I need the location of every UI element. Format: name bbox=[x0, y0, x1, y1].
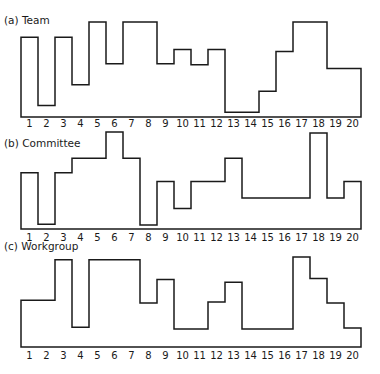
x-tick-label: 4 bbox=[77, 118, 83, 129]
x-tick-label: 7 bbox=[128, 118, 134, 129]
x-tick-label: 15 bbox=[261, 118, 274, 129]
x-tick-label: 10 bbox=[176, 118, 189, 129]
x-tick-label: 16 bbox=[278, 118, 291, 129]
x-tick-label: 19 bbox=[329, 350, 342, 361]
x-tick-label: 11 bbox=[193, 232, 206, 243]
x-tick-label: 3 bbox=[60, 118, 66, 129]
x-tick-label: 18 bbox=[312, 350, 325, 361]
x-tick-label: 7 bbox=[128, 232, 134, 243]
x-tick-label: 2 bbox=[43, 350, 49, 361]
x-tick-label: 9 bbox=[162, 350, 168, 361]
x-tick-label: 18 bbox=[312, 118, 325, 129]
x-tick-label: 19 bbox=[329, 118, 342, 129]
x-tick-label: 18 bbox=[312, 232, 325, 243]
x-tick-label: 11 bbox=[193, 118, 206, 129]
x-tick-label: 10 bbox=[176, 232, 189, 243]
x-tick-label: 15 bbox=[261, 350, 274, 361]
x-tick-label: 12 bbox=[210, 350, 223, 361]
x-tick-label: 15 bbox=[261, 232, 274, 243]
x-tick-label: 8 bbox=[145, 118, 151, 129]
x-tick-label: 3 bbox=[60, 350, 66, 361]
panel-team: (a) Team 1234567891011121314151617181920 bbox=[4, 14, 361, 129]
panel-title-committee: (b) Committee bbox=[4, 137, 80, 149]
x-tick-label: 17 bbox=[295, 350, 308, 361]
x-tick-label: 8 bbox=[145, 350, 151, 361]
x-tick-label: 5 bbox=[94, 350, 100, 361]
x-tick-label: 10 bbox=[176, 350, 189, 361]
x-tick-label: 12 bbox=[210, 232, 223, 243]
x-tick-label: 20 bbox=[346, 232, 359, 243]
x-tick-label: 20 bbox=[346, 350, 359, 361]
x-tick-label: 5 bbox=[94, 118, 100, 129]
x-tick-label: 13 bbox=[227, 232, 240, 243]
x-tick-label: 9 bbox=[162, 118, 168, 129]
x-tick-label: 11 bbox=[193, 350, 206, 361]
x-tick-label: 8 bbox=[145, 232, 151, 243]
x-tick-label: 17 bbox=[295, 118, 308, 129]
x-tick-label: 1 bbox=[26, 118, 32, 129]
x-tick-label: 1 bbox=[26, 350, 32, 361]
x-tick-label: 13 bbox=[227, 350, 240, 361]
x-tick-label: 6 bbox=[111, 350, 117, 361]
panel-committee: (b) Committee 12345678910111213141516171… bbox=[4, 132, 361, 243]
x-tick-label: 14 bbox=[244, 232, 257, 243]
x-tick-label: 5 bbox=[94, 232, 100, 243]
panel-workgroup: (c) Workgroup 12345678910111213141516171… bbox=[4, 240, 361, 361]
x-tick-label: 14 bbox=[244, 118, 257, 129]
x-tick-label: 4 bbox=[77, 350, 83, 361]
panel-title-workgroup: (c) Workgroup bbox=[4, 240, 79, 252]
x-tick-label: 16 bbox=[278, 232, 291, 243]
step-series-line bbox=[21, 257, 361, 347]
x-tick-label: 2 bbox=[43, 118, 49, 129]
x-tick-label: 6 bbox=[111, 232, 117, 243]
x-tick-label: 16 bbox=[278, 350, 291, 361]
x-tick-label: 12 bbox=[210, 118, 223, 129]
x-tick-label: 7 bbox=[128, 350, 134, 361]
x-tick-label: 17 bbox=[295, 232, 308, 243]
panel-title-team: (a) Team bbox=[4, 14, 50, 26]
step-series-line bbox=[21, 22, 361, 117]
x-tick-label: 6 bbox=[111, 118, 117, 129]
x-tick-label: 13 bbox=[227, 118, 240, 129]
x-tick-label: 9 bbox=[162, 232, 168, 243]
step-chart-figure: (a) Team 1234567891011121314151617181920… bbox=[0, 0, 380, 374]
x-tick-label: 20 bbox=[346, 118, 359, 129]
x-tick-label: 14 bbox=[244, 350, 257, 361]
figure: (a) Team 1234567891011121314151617181920… bbox=[0, 0, 380, 374]
x-tick-label: 19 bbox=[329, 232, 342, 243]
